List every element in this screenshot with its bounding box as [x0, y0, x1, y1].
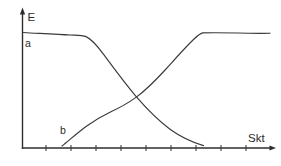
y-axis-title: E: [28, 11, 36, 23]
curve-a-label: a: [25, 37, 31, 49]
x-axis-title: Skt: [248, 132, 265, 144]
curve-a-path: [24, 33, 204, 146]
chart-figure: E Skt a b: [0, 0, 281, 166]
arrow-right-icon: [270, 145, 277, 150]
chart-canvas: E Skt a b: [0, 0, 281, 166]
arrow-up-icon: [20, 8, 25, 15]
curve-b-label: b: [60, 124, 66, 136]
curve-b-path: [62, 33, 270, 146]
